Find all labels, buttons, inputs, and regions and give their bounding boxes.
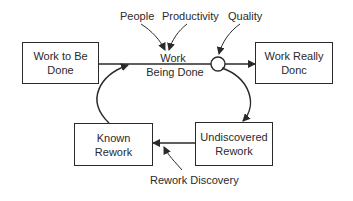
stock-label: Work Really Donc (261, 49, 327, 77)
flow-label-work-being-done: Work (143, 52, 203, 65)
influence-label-people: People (120, 10, 154, 23)
flow-label-rework-discovery: Rework Discovery (150, 174, 239, 187)
influence-label-quality: Quality (228, 10, 262, 23)
stock-work-really-done: Work Really Donc (255, 42, 333, 84)
productivity-influence-arrow (169, 24, 187, 50)
stock-work-to-be-done: Work to Be Done (22, 42, 99, 84)
diagram-canvas (0, 0, 353, 201)
flow-label-line: Work (143, 52, 203, 65)
flow-label-line: Being Done (140, 66, 210, 79)
stock-label: Known Rework (89, 131, 139, 159)
stock-label: Undiscovered Rework (197, 130, 271, 158)
flow-label-work-being-done-2: Being Done (140, 66, 210, 79)
undiscovered-rework-flow-arrow (222, 68, 250, 121)
stock-known-rework: Known Rework (74, 123, 153, 166)
quality-influence-arrow (219, 24, 240, 54)
stock-undiscovered-rework: Undiscovered Rework (195, 122, 273, 166)
people-influence-arrow (141, 24, 165, 50)
rework-discovery-influence-arrow (164, 147, 182, 170)
rework-return-flow-arrow (97, 65, 128, 123)
stock-label: Work to Be Done (31, 49, 91, 77)
influence-label-productivity: Productivity (162, 10, 219, 23)
